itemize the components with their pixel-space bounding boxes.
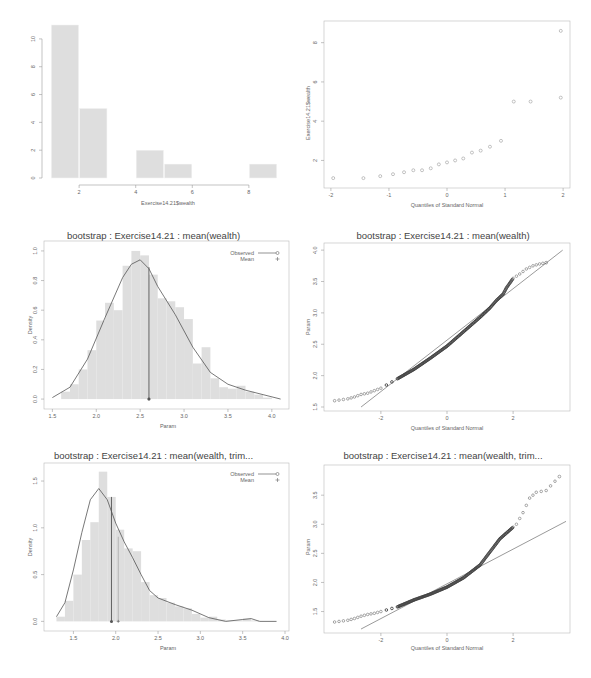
qq-point xyxy=(412,169,415,172)
histogram-bar xyxy=(114,310,123,399)
histogram-bars xyxy=(51,25,276,178)
y-tick-label: 2.5 xyxy=(312,340,318,348)
bootstrap-mean-qq-panel: bootstrap : Exercise14.21 : mean(wealth)… xyxy=(295,220,591,440)
qq-point xyxy=(360,393,363,396)
histogram-bar xyxy=(202,347,211,399)
x-tick-label: 1 xyxy=(504,192,507,198)
qq-point xyxy=(366,392,369,395)
x-axis-label: Quantiles of Standard Normal xyxy=(330,425,564,431)
histogram-bar xyxy=(175,307,184,399)
qq-point xyxy=(353,396,356,399)
qq-point xyxy=(356,616,359,619)
qq-point xyxy=(385,609,388,612)
histogram-bar xyxy=(219,387,228,399)
histogram-bar xyxy=(167,301,176,399)
qq-point xyxy=(338,399,341,402)
qq-point xyxy=(363,614,366,617)
x-tick-label: 2.0 xyxy=(112,635,120,641)
qq-point xyxy=(454,159,457,162)
qq-point xyxy=(373,389,376,392)
histogram-bar xyxy=(88,350,97,399)
histogram-bar xyxy=(82,540,90,621)
x-tick-label: 4 xyxy=(134,189,137,195)
histogram-bar xyxy=(263,398,272,399)
histogram-bar xyxy=(192,614,200,621)
qq-point xyxy=(421,169,424,172)
histogram-bar xyxy=(61,392,70,399)
legend: Observed Mean xyxy=(218,471,280,483)
x-tick-label: 6 xyxy=(191,189,194,195)
qq-point xyxy=(558,475,561,478)
x-tick-label: 2.0 xyxy=(92,413,100,419)
qq-point xyxy=(391,607,394,610)
y-tick-label: 2.0 xyxy=(312,372,318,380)
y-axis-label: Param xyxy=(305,277,311,377)
x-tick-label: 0 xyxy=(445,637,448,643)
qq-point xyxy=(347,619,350,622)
qq-point xyxy=(379,175,382,178)
x-axis-label: Exercise14.21$wealth xyxy=(58,200,278,206)
y-axis-label: Density xyxy=(27,497,33,597)
histogram-bar xyxy=(136,150,163,178)
qq-point xyxy=(370,391,373,394)
qq-point xyxy=(373,612,376,615)
y-tick-label: 6 xyxy=(30,93,36,96)
qq-point xyxy=(522,511,525,514)
qq-point xyxy=(515,523,518,526)
qq-point xyxy=(391,381,394,384)
x-tick-label: 2 xyxy=(512,415,515,421)
x-tick-label: -2 xyxy=(378,637,383,643)
qq-point xyxy=(470,151,473,154)
legend-item-mean: Mean xyxy=(218,477,280,483)
qq-wealth-panel: -2-10122468 Quantiles of Standard Normal… xyxy=(295,0,591,220)
qq-point xyxy=(499,139,502,142)
histogram-bar xyxy=(56,617,64,622)
qq-point xyxy=(535,264,538,267)
qq-point xyxy=(347,398,350,401)
qq-point xyxy=(529,100,532,103)
qq-point xyxy=(403,171,406,174)
histogram-bar xyxy=(165,164,192,178)
x-tick-label: -2 xyxy=(378,415,383,421)
histogram-bar xyxy=(116,530,124,622)
qq-point xyxy=(353,617,356,620)
qq-point xyxy=(559,96,562,99)
qq-point xyxy=(518,273,521,276)
y-tick-label: 2 xyxy=(30,149,36,152)
y-tick-label: 3.0 xyxy=(312,520,318,528)
qq-point xyxy=(525,268,528,271)
histogram-bar xyxy=(79,369,88,399)
x-tick-label: 2 xyxy=(78,189,81,195)
legend-label-mean: Mean xyxy=(240,477,254,483)
histogram-bar xyxy=(158,298,167,399)
x-tick-label: 1.5 xyxy=(49,413,57,419)
y-tick-label: 1.5 xyxy=(312,608,318,616)
qq-point xyxy=(333,399,336,402)
plot-area xyxy=(333,475,566,629)
x-tick-label: 2.5 xyxy=(154,635,162,641)
qq-points xyxy=(333,475,560,623)
x-tick-label: 2 xyxy=(512,637,515,643)
y-tick-label: 3.0 xyxy=(312,309,318,317)
qq-point xyxy=(549,485,552,488)
histogram-bar xyxy=(123,266,132,399)
histogram-bar xyxy=(149,275,158,399)
histogram-bar xyxy=(51,25,78,178)
histogram-bar xyxy=(90,522,98,621)
axes: -2-10122468 xyxy=(312,41,565,198)
x-tick-label: 4.0 xyxy=(281,635,289,641)
y-tick-label: 0.0 xyxy=(32,395,38,403)
y-tick-label: 4.0 xyxy=(312,246,318,254)
histogram-bar xyxy=(175,606,183,621)
bootstrap-trim-qq-plot: -2021.52.02.53.03.5 xyxy=(295,440,591,678)
qq-point xyxy=(429,167,432,170)
histogram-bar xyxy=(246,392,255,399)
plot-frame xyxy=(324,243,570,411)
x-tick-label: 3.0 xyxy=(197,635,205,641)
qq-point xyxy=(332,177,335,180)
qq-point xyxy=(362,177,365,180)
histogram-bar xyxy=(150,595,158,621)
qq-point xyxy=(559,29,562,32)
plot-area xyxy=(52,251,280,401)
qq-point xyxy=(532,494,535,497)
